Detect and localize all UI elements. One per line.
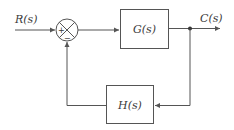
minus-sign: −: [64, 34, 71, 43]
summing-junction: + −: [56, 19, 78, 43]
forward-block-label: G(s): [133, 23, 156, 36]
feedback-block-label: H(s): [117, 99, 142, 112]
feedback-path-left: [67, 42, 107, 106]
input-label: R(s): [14, 13, 38, 26]
forward-block: G(s): [121, 10, 169, 49]
output-label: C(s): [200, 12, 223, 25]
block-diagram: R(s) + − G(s) C(s) H(s): [0, 0, 234, 130]
feedback-block: H(s): [107, 86, 154, 124]
